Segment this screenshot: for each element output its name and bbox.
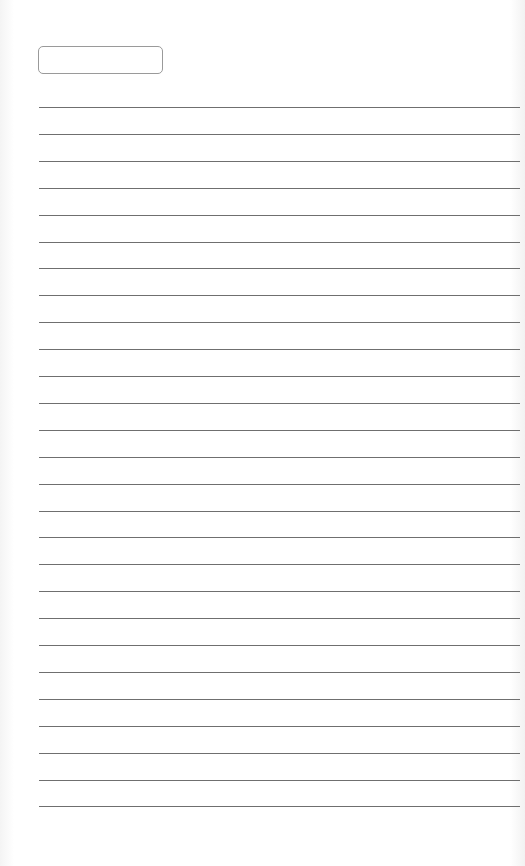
- ruled-line[interactable]: [39, 699, 520, 700]
- ruled-line[interactable]: [39, 645, 520, 646]
- ruled-line[interactable]: [39, 672, 520, 673]
- ruled-line[interactable]: [39, 403, 520, 404]
- ruled-line[interactable]: [39, 242, 520, 243]
- ruled-line[interactable]: [39, 376, 520, 377]
- ruled-line[interactable]: [39, 753, 520, 754]
- ruled-line[interactable]: [39, 349, 520, 350]
- ruled-line[interactable]: [39, 806, 520, 807]
- ruled-line[interactable]: [39, 430, 520, 431]
- ruled-line[interactable]: [39, 564, 520, 565]
- ruled-line[interactable]: [39, 484, 520, 485]
- ruled-line[interactable]: [39, 134, 520, 135]
- ruled-line[interactable]: [39, 188, 520, 189]
- ruled-lines: [39, 0, 520, 866]
- ruled-line[interactable]: [39, 295, 520, 296]
- ruled-line[interactable]: [39, 780, 520, 781]
- ruled-line[interactable]: [39, 537, 520, 538]
- ruled-line[interactable]: [39, 107, 520, 108]
- ruled-line[interactable]: [39, 268, 520, 269]
- ruled-line[interactable]: [39, 726, 520, 727]
- ruled-line[interactable]: [39, 215, 520, 216]
- ruled-line[interactable]: [39, 618, 520, 619]
- ruled-line[interactable]: [39, 591, 520, 592]
- ruled-line[interactable]: [39, 322, 520, 323]
- ruled-line[interactable]: [39, 161, 520, 162]
- ruled-line[interactable]: [39, 457, 520, 458]
- ruled-line[interactable]: [39, 511, 520, 512]
- lined-paper-page: [0, 0, 525, 866]
